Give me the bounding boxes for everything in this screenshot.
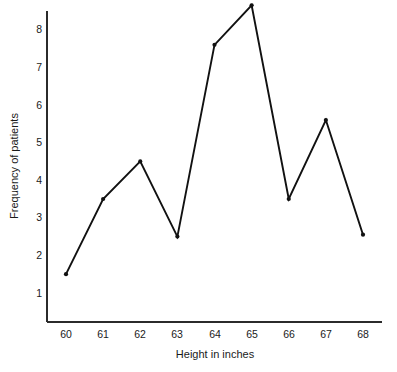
x-tick-label: 66 — [283, 328, 295, 340]
data-point — [324, 118, 328, 122]
x-tick-label: 62 — [134, 328, 146, 340]
data-point — [287, 197, 291, 201]
line-chart: 1 2 3 4 5 6 7 8 60 61 62 63 64 65 66 67 … — [0, 0, 397, 372]
y-tick-label: 6 — [36, 99, 42, 111]
data-point — [212, 43, 216, 47]
chart-canvas: 1 2 3 4 5 6 7 8 60 61 62 63 64 65 66 67 … — [0, 0, 397, 372]
x-axis-title: Height in inches — [176, 348, 255, 360]
y-tick-label: 4 — [36, 174, 42, 186]
data-point — [101, 197, 105, 201]
y-tick-label: 2 — [36, 249, 42, 261]
data-point — [250, 3, 254, 7]
y-tick-label: 5 — [36, 136, 42, 148]
y-axis-title: Frequency of patients — [8, 113, 20, 219]
data-point — [361, 233, 365, 237]
x-tick-label: 68 — [357, 328, 369, 340]
x-tick-label: 63 — [171, 328, 183, 340]
y-tick-label: 3 — [36, 211, 42, 223]
x-tick-label: 60 — [60, 328, 72, 340]
y-tick-label: 8 — [36, 23, 42, 35]
data-point — [64, 272, 68, 276]
data-point — [175, 235, 179, 239]
x-tick-label: 65 — [246, 328, 258, 340]
y-tick-label: 7 — [36, 61, 42, 73]
x-tick-label: 67 — [320, 328, 332, 340]
y-tick-label: 1 — [36, 287, 42, 299]
data-point — [138, 159, 142, 163]
x-tick-label: 64 — [209, 328, 221, 340]
data-point-markers — [64, 3, 365, 276]
x-tick-label: 61 — [97, 328, 109, 340]
